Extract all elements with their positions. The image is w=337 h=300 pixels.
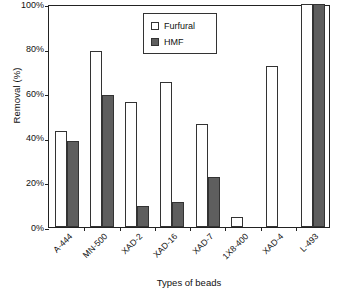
y-axis-tick-label: 40% bbox=[4, 134, 44, 143]
x-axis-tick-label: XAD-16 bbox=[139, 232, 179, 272]
legend-entry: Furfural bbox=[151, 18, 216, 34]
y-axis-tick-mark bbox=[45, 229, 49, 230]
legend-entry: HMF bbox=[151, 34, 216, 50]
x-axis-tick-labels: A-444MN-500XAD-2XAD-16XAD-71X8-400XAD-4L… bbox=[48, 232, 330, 276]
x-axis-title: Types of beads bbox=[48, 277, 330, 288]
bar-xad-2-furfural bbox=[125, 102, 137, 227]
bar-a-444-hmf bbox=[67, 141, 79, 227]
bar-xad-4-furfural bbox=[266, 66, 278, 227]
y-axis-tick-label: 100% bbox=[4, 1, 44, 10]
legend-label: HMF bbox=[164, 38, 184, 47]
x-axis-tick-mark bbox=[190, 227, 191, 231]
legend-label: Furfural bbox=[164, 22, 195, 31]
hollow-square-icon bbox=[151, 22, 159, 30]
x-axis-tick-mark bbox=[225, 227, 226, 231]
bar-a-444-furfural bbox=[55, 131, 67, 227]
bar-l-493-furfural bbox=[301, 4, 313, 227]
x-axis-tick-mark bbox=[120, 227, 121, 231]
chart-legend: FurfuralHMF bbox=[143, 13, 217, 54]
bar-mn-500-furfural bbox=[90, 51, 102, 227]
y-axis-tick-label: 80% bbox=[4, 45, 44, 54]
bar-xad-2-hmf bbox=[137, 206, 149, 227]
bar-1x8-400-furfural bbox=[231, 217, 243, 227]
x-axis-tick-label: MN-500 bbox=[69, 232, 109, 272]
bar-xad-7-hmf bbox=[208, 177, 220, 227]
x-axis-tick-label: XAD-7 bbox=[175, 232, 215, 272]
bar-xad-16-hmf bbox=[172, 202, 184, 227]
x-axis-tick-label: L-493 bbox=[280, 232, 320, 272]
x-axis-tick-mark bbox=[261, 227, 262, 231]
bar-l-493-hmf bbox=[313, 4, 325, 227]
bar-xad-7-furfural bbox=[196, 124, 208, 227]
y-axis-tick-label: 60% bbox=[4, 90, 44, 99]
y-axis-tick-label: 0% bbox=[4, 224, 44, 233]
filled-square-icon bbox=[151, 38, 159, 46]
removal-bar-chart: Removal (%) 0%20%40%60%80%100% FurfuralH… bbox=[0, 0, 337, 300]
y-axis-tick-labels: 0%20%40%60%80%100% bbox=[0, 0, 44, 300]
bar-mn-500-hmf bbox=[102, 95, 114, 227]
bar-xad-16-furfural bbox=[160, 82, 172, 227]
x-axis-tick-label: 1X8-400 bbox=[210, 232, 250, 272]
x-axis-tick-mark bbox=[155, 227, 156, 231]
y-axis-tick-label: 20% bbox=[4, 179, 44, 188]
x-axis-tick-mark bbox=[296, 227, 297, 231]
x-axis-tick-mark bbox=[84, 227, 85, 231]
